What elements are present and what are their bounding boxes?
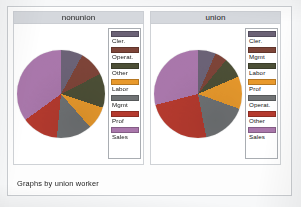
legend-item-label: Mgmt <box>111 101 138 109</box>
legend-item[interactable]: Other <box>248 111 275 127</box>
legend-item[interactable]: Sales <box>248 127 275 143</box>
legend-item-label: Labor <box>248 69 275 77</box>
legend-nonunion: Cler. Operat. Other Labor <box>108 28 141 159</box>
legend-item-label: Sales <box>248 133 275 141</box>
graph-canvas: nonunion Cler. Operat. <box>7 6 292 196</box>
legend-item[interactable]: Operat. <box>248 95 275 111</box>
legend-item[interactable]: Cler. <box>111 31 138 47</box>
legend-item[interactable]: Prof <box>111 111 138 127</box>
panel-nonunion: nonunion Cler. Operat. <box>13 11 144 165</box>
legend-item-label: Prof <box>248 85 275 93</box>
legend-item-label: Other <box>248 117 275 125</box>
legend-item[interactable]: Labor <box>111 79 138 95</box>
panel-title-bar-union: union <box>150 11 281 24</box>
legend-item-label: Operat. <box>248 101 275 109</box>
pie-chart-union <box>154 50 242 138</box>
legend-item[interactable]: Other <box>111 63 138 79</box>
legend-item-label: Cler. <box>248 37 275 45</box>
pie-wrap-union <box>154 36 244 154</box>
legend-item-label: Cler. <box>111 37 138 45</box>
legend-item[interactable]: Operat. <box>111 47 138 63</box>
legend-item[interactable]: Labor <box>248 63 275 79</box>
legend-item-label: Operat. <box>111 53 138 61</box>
pie-wrap-nonunion <box>17 36 107 154</box>
graph-note: Graphs by union worker <box>17 179 99 188</box>
plotregion-union: Cler. Mgmt Labor Prof <box>150 24 281 165</box>
panel-union: union Cler. Mgmt <box>150 11 281 165</box>
legend-item[interactable]: Mgmt <box>248 47 275 63</box>
legend-item[interactable]: Prof <box>248 79 275 95</box>
legend-item[interactable]: Mgmt <box>111 95 138 111</box>
panel-title-nonunion: nonunion <box>14 12 143 23</box>
legend-item-label: Mgmt <box>248 53 275 61</box>
legend-item-label: Labor <box>111 85 138 93</box>
legend-item-label: Other <box>111 69 138 77</box>
panel-title-bar-nonunion: nonunion <box>13 11 144 24</box>
scanned-page: nonunion Cler. Operat. <box>0 0 301 207</box>
legend-item[interactable]: Sales <box>111 127 138 143</box>
legend-union: Cler. Mgmt Labor Prof <box>245 28 278 159</box>
legend-item[interactable]: Cler. <box>248 31 275 47</box>
pie-chart-nonunion <box>17 50 105 138</box>
plotregion-nonunion: Cler. Operat. Other Labor <box>13 24 144 165</box>
legend-item-label: Sales <box>111 133 138 141</box>
panel-title-union: union <box>151 12 280 23</box>
legend-item-label: Prof <box>111 117 138 125</box>
